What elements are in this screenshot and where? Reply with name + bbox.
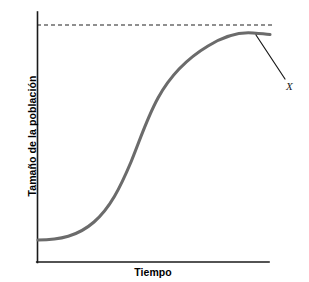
population-growth-curve [38,33,270,240]
annotation-leader-line [256,35,285,79]
x-axis-title: Tiempo [37,266,269,278]
chart-canvas [0,0,309,282]
figure-container: Tamaño de la población Tiempo X [0,0,309,282]
curve-annotation-label: X [286,80,293,92]
y-axis-title: Tamaño de la población [26,36,38,236]
